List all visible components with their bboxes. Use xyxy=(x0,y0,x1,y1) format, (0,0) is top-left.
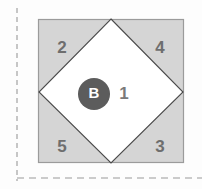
figure-canvas: 2 4 5 3 B 1 xyxy=(0,0,202,189)
corner-region-label-bottom-left: 5 xyxy=(57,137,66,156)
corner-region-label-top-right: 4 xyxy=(155,38,165,57)
geometry-figure: 2 4 5 3 B 1 xyxy=(0,0,202,189)
corner-region-label-top-left: 2 xyxy=(57,38,66,57)
center-node-label: B xyxy=(89,84,100,101)
inner-region-label: 1 xyxy=(119,84,128,103)
corner-region-label-bottom-right: 3 xyxy=(155,137,164,156)
